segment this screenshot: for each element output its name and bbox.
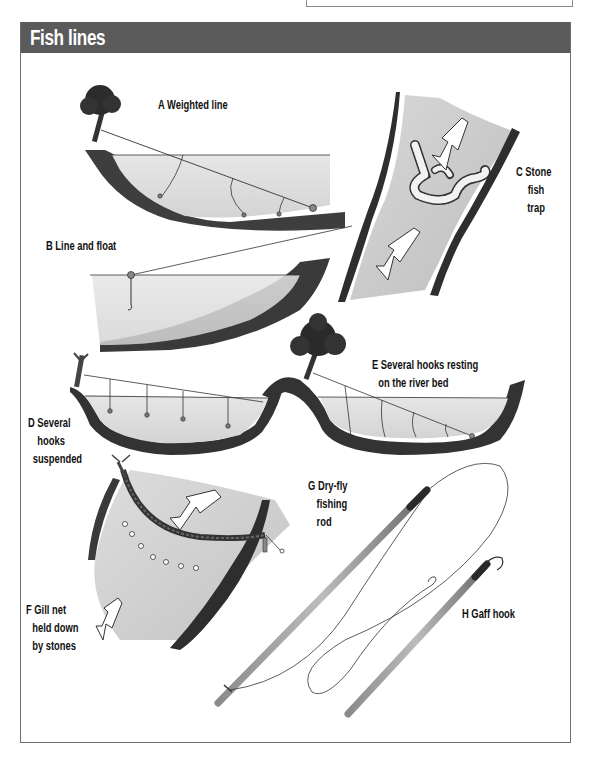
label-line: B Line and float [46,237,116,255]
tree-icon [290,313,346,380]
label-line: rod [308,513,348,531]
label-line: suspended [28,450,82,468]
label-line: E Several hooks resting [372,356,478,374]
several-hooks-suspended-illustration [70,353,282,455]
label-line: F Gill net [26,601,79,619]
label-line: C Stone [516,163,551,181]
label-e-hooks-on-river-bed: E Several hooks resting on the river bed [372,356,478,392]
label-h-gaff-hook: H Gaff hook [462,605,515,623]
fly-hook-icon [428,577,436,585]
tree-icon [80,85,121,142]
label-line: fish [516,181,551,199]
label-g-dry-fly-rod: G Dry-fly fishing rod [308,477,348,531]
label-line: held down [26,619,79,637]
label-line: by stones [26,637,79,655]
label-line: fishing [308,495,348,513]
label-b-line-and-float: B Line and float [46,237,116,255]
label-f-gill-net: F Gill net held down by stones [26,601,79,655]
gill-net-illustration [88,455,290,650]
label-a-weighted-line: A Weighted line [158,96,228,114]
stake-icon [74,353,88,387]
label-line: hooks [28,432,82,450]
label-line: on the river bed [372,374,478,392]
label-line: D Several [28,414,82,432]
label-line: trap [516,199,551,217]
label-d-several-hooks-suspended: D Several hooks suspended [28,414,82,468]
label-c-stone-fish-trap: C Stone fish trap [516,163,551,217]
label-line: G Dry-fly [308,477,348,495]
float-icon [128,272,135,279]
gaff-pole-icon [348,566,485,714]
illustration-canvas [0,0,590,766]
stone-fish-trap-illustration [338,92,520,302]
label-line: H Gaff hook [462,605,515,623]
label-line: A Weighted line [158,96,228,114]
gaff-hook-illustration [348,557,503,714]
